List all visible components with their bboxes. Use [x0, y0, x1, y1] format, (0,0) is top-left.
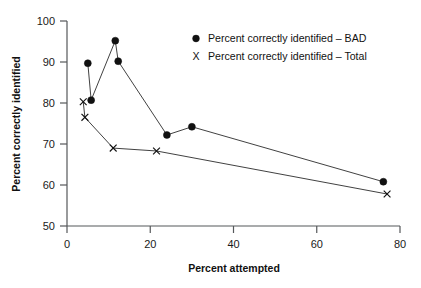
legend-x-icon: X — [192, 50, 199, 62]
legend-label: Percent correctly identified – Total — [208, 50, 367, 62]
x-axis-title: Percent attempted — [188, 262, 280, 274]
data-point-dot — [188, 123, 195, 130]
x-tick-label: 0 — [64, 238, 70, 250]
data-point-dot — [88, 97, 95, 104]
x-tick-label: 80 — [394, 238, 406, 250]
y-axis-title: Percent correctly identified — [10, 56, 22, 191]
y-tick-label: 100 — [37, 15, 55, 27]
legend-item: XPercent correctly identified – Total — [192, 50, 366, 62]
chart-figure: 5060708090100 020406080 Percent attempte… — [0, 0, 421, 288]
data-point-dot — [84, 60, 91, 67]
data-point-dot — [112, 37, 119, 44]
legend-item: Percent correctly identified – BAD — [193, 32, 367, 44]
data-point-dot — [380, 178, 387, 185]
data-point-dot — [163, 131, 170, 138]
legend-label: Percent correctly identified – BAD — [208, 32, 367, 44]
y-tick-label: 80 — [43, 97, 55, 109]
y-tick-label: 50 — [43, 220, 55, 232]
y-tick-label: 90 — [43, 56, 55, 68]
y-tick-label: 70 — [43, 138, 55, 150]
x-tick-label: 60 — [311, 238, 323, 250]
data-point-dot — [115, 58, 122, 65]
x-tick-label: 40 — [227, 238, 239, 250]
scatter-line-chart: 5060708090100 020406080 Percent attempte… — [0, 0, 421, 288]
x-tick-label: 20 — [144, 238, 156, 250]
y-tick-label: 60 — [43, 179, 55, 191]
legend-dot-icon — [193, 35, 200, 42]
